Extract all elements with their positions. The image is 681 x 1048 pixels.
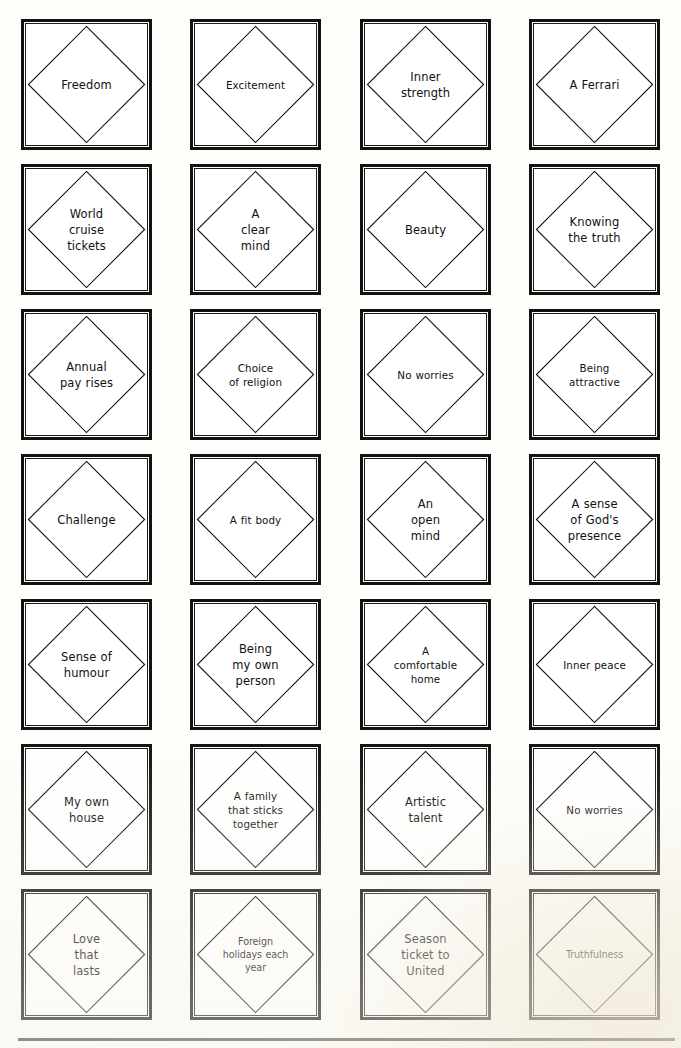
value-card-inner-frame: No worries (364, 313, 487, 436)
value-card-label: A fit body (203, 512, 307, 526)
value-card[interactable]: Being attractive (529, 309, 660, 440)
value-card-inner-frame: A clear mind (194, 168, 317, 291)
value-card-label: Inner strength (373, 68, 477, 101)
value-card-inner-frame: Sense of humour (25, 603, 148, 726)
value-card-inner-frame: Challenge (25, 458, 148, 581)
value-card-label: Sense of humour (34, 648, 138, 681)
value-card-label: Love that lasts (34, 930, 138, 979)
value-card-label: A family that sticks together (203, 788, 307, 831)
value-card[interactable]: Season ticket to United (360, 889, 491, 1020)
value-card-inner-frame: Beauty (364, 168, 487, 291)
value-card[interactable]: Artistic talent (360, 744, 491, 875)
value-card-inner-frame: A family that sticks together (194, 748, 317, 871)
value-card-label: A sense of God's presence (542, 495, 646, 544)
value-card-label: My own house (34, 793, 138, 826)
value-card-inner-frame: My own house (25, 748, 148, 871)
value-card-label: A clear mind (203, 205, 307, 254)
scanner-edge-line (18, 1038, 675, 1041)
value-card-label: World cruise tickets (34, 205, 138, 254)
value-card-label: Knowing the truth (542, 213, 646, 246)
value-card[interactable]: An open mind (360, 454, 491, 585)
value-card[interactable]: A Ferrari (529, 19, 660, 150)
value-card-inner-frame: Being my own person (194, 603, 317, 726)
value-card[interactable]: Love that lasts (21, 889, 152, 1020)
value-card[interactable]: No worries (529, 744, 660, 875)
value-card[interactable]: Inner strength (360, 19, 491, 150)
value-card-inner-frame: No worries (533, 748, 656, 871)
value-card-inner-frame: Love that lasts (25, 893, 148, 1016)
value-card[interactable]: Excitement (190, 19, 321, 150)
value-card-label: Season ticket to United (373, 930, 477, 979)
value-card-label: Being attractive (542, 360, 646, 388)
value-card-label: A comfortable home (373, 643, 477, 686)
value-card-label: No worries (542, 802, 646, 816)
value-card[interactable]: A clear mind (190, 164, 321, 295)
value-card-inner-frame: Freedom (25, 23, 148, 146)
value-card-label: Choice of religion (203, 360, 307, 388)
value-card-inner-frame: A sense of God's presence (533, 458, 656, 581)
value-card-label: Excitement (203, 77, 307, 91)
value-card-inner-frame: Choice of religion (194, 313, 317, 436)
value-card[interactable]: Sense of humour (21, 599, 152, 730)
value-card-inner-frame: Inner strength (364, 23, 487, 146)
value-card-label: Artistic talent (373, 793, 477, 826)
value-card-inner-frame: Foreign holidays each year (194, 893, 317, 1016)
value-card-label: Foreign holidays each year (203, 935, 307, 974)
value-card-inner-frame: Being attractive (533, 313, 656, 436)
value-card[interactable]: No worries (360, 309, 491, 440)
value-card[interactable]: A fit body (190, 454, 321, 585)
value-card[interactable]: Annual pay rises (21, 309, 152, 440)
value-card-label: Inner peace (542, 657, 646, 671)
value-card[interactable]: A sense of God's presence (529, 454, 660, 585)
value-card[interactable]: Foreign holidays each year (190, 889, 321, 1020)
value-card-inner-frame: Inner peace (533, 603, 656, 726)
value-card-inner-frame: A comfortable home (364, 603, 487, 726)
value-card-label: No worries (373, 367, 477, 381)
card-sheet: FreedomExcitementInner strengthA Ferrari… (0, 0, 681, 1048)
value-card-label: Challenge (34, 511, 138, 527)
value-card-inner-frame: Truthfulness (533, 893, 656, 1016)
value-card[interactable]: A comfortable home (360, 599, 491, 730)
value-card-inner-frame: Knowing the truth (533, 168, 656, 291)
value-card-inner-frame: World cruise tickets (25, 168, 148, 291)
value-card-inner-frame: Excitement (194, 23, 317, 146)
value-card[interactable]: World cruise tickets (21, 164, 152, 295)
value-card[interactable]: My own house (21, 744, 152, 875)
value-card[interactable]: Being my own person (190, 599, 321, 730)
value-card-inner-frame: An open mind (364, 458, 487, 581)
value-card[interactable]: Inner peace (529, 599, 660, 730)
value-card-inner-frame: A fit body (194, 458, 317, 581)
value-card[interactable]: Beauty (360, 164, 491, 295)
value-card-label: Truthfulness (542, 948, 646, 961)
value-card[interactable]: Knowing the truth (529, 164, 660, 295)
value-card-label: Freedom (34, 76, 138, 92)
value-card[interactable]: Freedom (21, 19, 152, 150)
value-card[interactable]: Choice of religion (190, 309, 321, 440)
value-card-inner-frame: A Ferrari (533, 23, 656, 146)
value-card[interactable]: Truthfulness (529, 889, 660, 1020)
value-card-inner-frame: Season ticket to United (364, 893, 487, 1016)
value-card-label: Being my own person (203, 640, 307, 689)
value-card-inner-frame: Artistic talent (364, 748, 487, 871)
value-card[interactable]: Challenge (21, 454, 152, 585)
value-card-inner-frame: Annual pay rises (25, 313, 148, 436)
value-card-label: Annual pay rises (34, 358, 138, 391)
value-card-label: Beauty (373, 221, 477, 237)
value-card-label: A Ferrari (542, 76, 646, 92)
value-card-label: An open mind (373, 495, 477, 544)
value-card[interactable]: A family that sticks together (190, 744, 321, 875)
